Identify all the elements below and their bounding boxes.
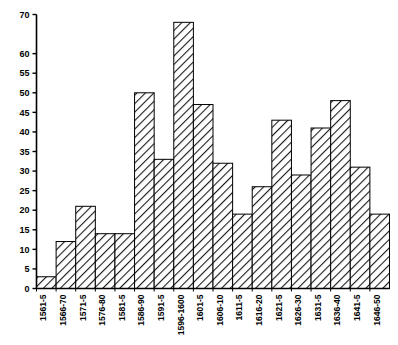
- bar: [213, 163, 233, 288]
- bar: [291, 175, 311, 289]
- bar: [311, 128, 331, 288]
- bar: [331, 101, 351, 289]
- x-axis-tick-label: 1646-50: [372, 294, 382, 325]
- bar: [252, 187, 272, 289]
- x-axis-tick-label: 1641-5: [352, 294, 362, 321]
- bar: [135, 93, 155, 289]
- y-axis-tick-label: 70: [19, 10, 29, 20]
- bar: [233, 214, 253, 288]
- y-axis-tick-label: 35: [19, 147, 29, 157]
- x-axis-tick-label: 1591-5: [156, 294, 166, 321]
- y-axis-tick-label: 10: [19, 245, 29, 255]
- x-axis-tick-label: 1606-10: [215, 294, 225, 325]
- y-axis-tick-label: 55: [19, 68, 29, 78]
- y-axis-tick-label: 60: [19, 49, 29, 59]
- x-axis-tick-label: 1581-5: [117, 294, 127, 321]
- histogram-chart: 05101520253035404550556070 1561-51566-70…: [0, 0, 398, 345]
- bar: [154, 159, 174, 288]
- y-axis-tick-label: 30: [19, 166, 29, 176]
- bar: [272, 120, 292, 288]
- y-axis-tick-label: 15: [19, 225, 29, 235]
- bar: [370, 214, 390, 288]
- bar: [350, 167, 370, 288]
- bar: [115, 234, 135, 289]
- bar: [193, 105, 213, 289]
- chart-canvas: 05101520253035404550556070 1561-51566-70…: [0, 0, 398, 345]
- y-axis-tick-label: 25: [19, 186, 29, 196]
- y-axis-tick-label: 50: [19, 88, 29, 98]
- x-axis-tick-label: 1596-1600: [176, 294, 186, 335]
- bar: [76, 206, 96, 288]
- x-axis-tick-label: 1621-5: [274, 294, 284, 321]
- x-axis-tick-label: 1571-5: [78, 294, 88, 321]
- y-axis-tick-label: 20: [19, 205, 29, 215]
- x-axis-tick-label: 1586-90: [136, 294, 146, 325]
- bar: [37, 277, 57, 289]
- x-axis-tick-label: 1626-30: [293, 294, 303, 325]
- bar: [95, 234, 115, 289]
- y-axis-tick-label: 5: [24, 264, 29, 274]
- x-axis-tick-label: 1616-20: [254, 294, 264, 325]
- x-axis-tick-label: 1576-80: [97, 294, 107, 325]
- x-axis-tick-label: 1561-5: [38, 294, 48, 321]
- x-axis-tick-label: 1566-70: [58, 294, 68, 325]
- y-axis-tick-label: 45: [19, 108, 29, 118]
- x-axis-tick-label: 1636-40: [332, 294, 342, 325]
- bar: [56, 242, 76, 289]
- x-axis-tick-label: 1601-5: [195, 294, 205, 321]
- x-axis-tick-label: 1631-5: [313, 294, 323, 321]
- bar: [174, 22, 194, 288]
- x-axis-tick-label: 1611-5: [234, 294, 244, 320]
- y-axis-tick-label: 0: [24, 284, 29, 294]
- y-axis-tick-label: 40: [19, 127, 29, 137]
